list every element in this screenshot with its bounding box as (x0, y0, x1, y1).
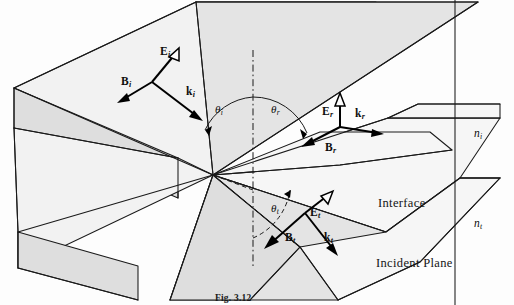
refractive-index-transmitted-label: nt (474, 218, 482, 231)
figure-container: Ei Bi ki Er kr Br Et Bt kt θi θr θt ni n… (0, 0, 514, 305)
interface-label: Interface (378, 197, 426, 210)
transmitted-k-label: kt (324, 232, 333, 245)
angle-incidence-label: θi (215, 104, 223, 117)
transmitted-b-label: Bt (285, 232, 295, 245)
incident-plane-label: Incident Plane (376, 257, 453, 270)
reflected-b-label: Br (325, 142, 336, 155)
interface-right-wing (388, 104, 500, 118)
incident-k-label: ki (186, 86, 195, 99)
figure-caption: Fig. 3.12 (215, 294, 251, 304)
reflected-e-label: Er (322, 106, 333, 119)
incident-b-label: Bi (121, 76, 131, 89)
reflected-k-label: kr (355, 108, 365, 121)
transmitted-e-label: Et (310, 207, 320, 220)
refractive-index-incident-label: ni (474, 128, 482, 141)
angle-transmission-label: θt (271, 203, 279, 216)
incident-e-label: Ei (160, 46, 170, 59)
lower-left-slab-side (18, 232, 138, 300)
angle-reflection-label: θr (271, 104, 280, 117)
